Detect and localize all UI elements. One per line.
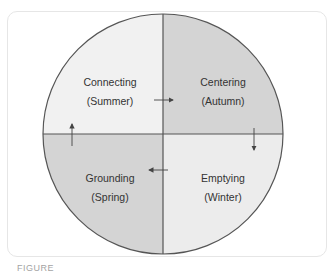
quadrant-top-right [163, 14, 283, 134]
quadrant-title: Grounding [65, 172, 155, 184]
quadrant-title: Centering [178, 76, 268, 88]
quadrant-title: Connecting [65, 76, 155, 88]
quadrant-label-connecting: Connecting (Summer) [65, 76, 155, 107]
quadrant-season: (Autumn) [178, 95, 268, 107]
quadrant-label-grounding: Grounding (Spring) [65, 172, 155, 203]
figure-caption: FIGURE [17, 263, 54, 273]
quadrant-title: Emptying [178, 172, 268, 184]
quadrant-label-emptying: Emptying (Winter) [178, 172, 268, 203]
quadrant-label-centering: Centering (Autumn) [178, 76, 268, 107]
quadrant-season: (Spring) [65, 191, 155, 203]
quadrant-season: (Winter) [178, 191, 268, 203]
quadrant-top-left [43, 14, 163, 134]
quadrant-season: (Summer) [65, 95, 155, 107]
